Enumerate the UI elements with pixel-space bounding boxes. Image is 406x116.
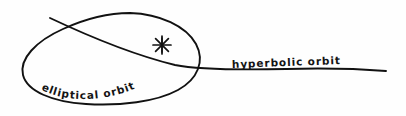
orbit-diagram-canvas: elliptical orbit hyperbolic orbit: [0, 0, 406, 116]
hyperbolic-orbit-label: hyperbolic orbit: [232, 54, 341, 70]
orbit-diagram: elliptical orbit hyperbolic orbit: [0, 0, 406, 116]
elliptical-orbit-label: elliptical orbit: [40, 79, 136, 101]
star-asterisk-icon: [153, 36, 171, 54]
